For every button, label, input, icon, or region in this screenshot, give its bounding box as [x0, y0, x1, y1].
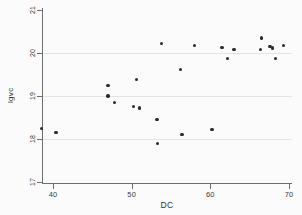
- y-tick-label-17: 17: [29, 174, 36, 190]
- y-tick-20: [37, 53, 42, 54]
- scatter-plot-figure: lgvc DC 171819202140506070: [0, 0, 302, 215]
- y-tick-label-18: 18: [29, 131, 36, 147]
- data-point: [260, 36, 263, 39]
- y-axis-title: lgvc: [6, 0, 15, 190]
- y-tick-label-21: 21: [29, 2, 36, 18]
- y-tick-17: [37, 182, 42, 183]
- data-point: [106, 94, 109, 97]
- x-tick-label-50: 50: [120, 190, 144, 199]
- x-tick-label-40: 40: [41, 190, 65, 199]
- x-axis-title: DC: [42, 200, 292, 210]
- gridline-y-20: [43, 53, 292, 54]
- x-tick-70: [289, 184, 290, 189]
- x-tick-50: [132, 184, 133, 189]
- data-point: [220, 46, 223, 49]
- data-point: [54, 131, 57, 134]
- x-axis-line: [42, 183, 292, 184]
- gridline-y-18: [43, 139, 292, 140]
- x-tick-40: [53, 184, 54, 189]
- data-point: [40, 127, 43, 130]
- data-point: [138, 106, 141, 109]
- y-tick-21: [37, 10, 42, 11]
- y-tick-18: [37, 139, 42, 140]
- data-point: [155, 118, 158, 121]
- data-point: [232, 48, 235, 51]
- x-tick-label-70: 70: [277, 190, 301, 199]
- data-point: [210, 128, 213, 131]
- gridline-y-19: [43, 96, 292, 97]
- data-point: [106, 84, 109, 87]
- x-tick-60: [210, 184, 211, 189]
- y-tick-label-20: 20: [29, 45, 36, 61]
- data-point: [271, 46, 274, 49]
- y-tick-label-19: 19: [29, 88, 36, 104]
- x-tick-label-60: 60: [198, 190, 222, 199]
- y-tick-19: [37, 96, 42, 97]
